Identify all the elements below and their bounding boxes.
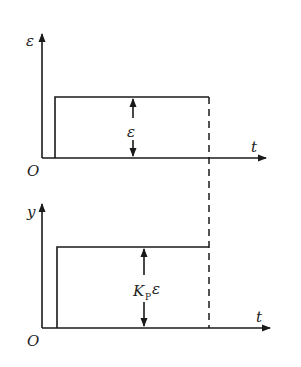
bottom-amplitude-label-subscript: P	[145, 292, 151, 302]
top-amplitude-label: ε	[127, 123, 135, 141]
bottom-y-axis-label: y	[26, 203, 36, 221]
bottom-origin-label: O	[27, 332, 39, 350]
bottom-plot: y t O K P ε	[26, 203, 270, 350]
bottom-x-axis-label: t	[256, 308, 263, 326]
diagram-canvas: ε t O ε y t O K P ε	[0, 0, 301, 367]
top-origin-label: O	[27, 162, 39, 180]
top-y-axis-label: ε	[26, 32, 34, 50]
top-plot: ε t O ε	[26, 32, 266, 180]
top-x-axis-label: t	[251, 138, 258, 156]
bottom-amplitude-label-k: K	[132, 282, 145, 300]
bottom-amplitude-label-epsilon: ε	[152, 280, 160, 298]
